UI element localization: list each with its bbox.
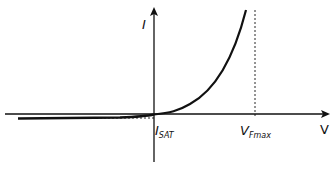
vfmax-label: VFmax <box>240 122 271 140</box>
iv-curve-diagram <box>0 0 335 170</box>
x-axis-label: V <box>320 123 329 136</box>
reverse-bias-curve <box>18 115 154 119</box>
vfmax-label-main: V <box>240 123 249 138</box>
y-axis-label: I <box>142 18 146 31</box>
forward-bias-curve <box>154 10 246 115</box>
isat-label-sub: SAT <box>159 131 174 140</box>
x-axis <box>5 110 330 118</box>
vfmax-label-sub: Fmax <box>249 131 271 140</box>
isat-label: ISAT <box>155 122 174 140</box>
